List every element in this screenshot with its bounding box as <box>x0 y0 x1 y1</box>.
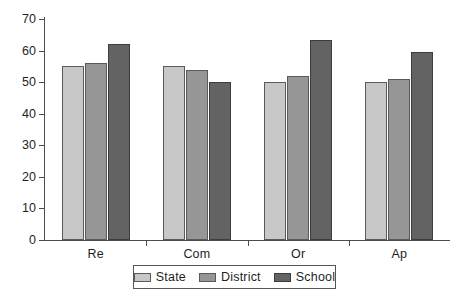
legend-swatch-state-icon <box>134 273 151 282</box>
legend-item-district: District <box>199 271 261 284</box>
x-axis-label-ap: Ap <box>359 248 439 261</box>
legend-item-school: School <box>274 271 335 284</box>
chart-legend: State District School <box>133 265 336 289</box>
legend-swatch-school-icon <box>274 273 291 282</box>
bar-ap-district <box>388 79 410 240</box>
legend-swatch-district-icon <box>199 273 216 282</box>
bar-or-state <box>264 82 286 240</box>
x-axis-label-re: Re <box>56 248 136 261</box>
y-axis-tick-label: 60 <box>0 45 36 58</box>
x-axis-label-com: Com <box>157 248 237 261</box>
bar-chart: 010203040506070 ReComOrAp State District… <box>0 0 456 303</box>
bar-com-district <box>186 70 208 240</box>
x-axis-tick <box>248 241 249 246</box>
y-axis-tick-label: 70 <box>0 13 36 26</box>
y-axis-tick-label: 20 <box>0 171 36 184</box>
x-axis-label-or: Or <box>258 248 338 261</box>
y-axis-tick-label: 10 <box>0 202 36 215</box>
plot-area <box>45 19 450 240</box>
y-axis-tick <box>39 240 45 241</box>
bar-com-school <box>209 82 231 240</box>
legend-item-state: State <box>134 271 186 284</box>
bar-re-school <box>108 44 130 240</box>
y-axis-tick-label: 50 <box>0 76 36 89</box>
x-axis-tick <box>146 241 147 246</box>
legend-label-state: State <box>156 271 186 284</box>
y-axis-tick-label: 30 <box>0 139 36 152</box>
x-axis-tick <box>349 241 350 246</box>
legend-label-district: District <box>221 271 261 284</box>
bar-com-state <box>163 66 185 240</box>
bar-ap-state <box>365 82 387 240</box>
legend-label-school: School <box>296 271 335 284</box>
bar-or-district <box>287 76 309 240</box>
bar-or-school <box>310 40 332 240</box>
bar-re-state <box>62 66 84 240</box>
y-axis-tick-label: 0 <box>0 234 36 247</box>
y-axis-tick-label: 40 <box>0 108 36 121</box>
bar-ap-school <box>411 52 433 240</box>
bar-re-district <box>85 63 107 240</box>
